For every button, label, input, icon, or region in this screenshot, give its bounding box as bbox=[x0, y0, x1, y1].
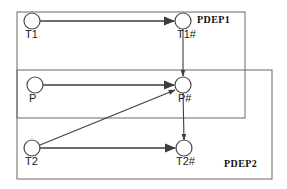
node-label-t1: T1 bbox=[25, 28, 38, 40]
node-label-ph: P# bbox=[178, 92, 192, 104]
node-t2[interactable] bbox=[24, 140, 40, 156]
node-label-t2: T2 bbox=[25, 155, 38, 167]
node-label-p: P bbox=[29, 92, 36, 104]
region-label-pdep2: PDEP2 bbox=[224, 158, 257, 169]
node-ph[interactable] bbox=[175, 77, 191, 93]
node-label-t1h: T1# bbox=[177, 28, 197, 40]
node-t1h[interactable] bbox=[175, 13, 191, 29]
node-p[interactable] bbox=[27, 77, 43, 93]
region-boxes bbox=[17, 12, 272, 179]
region-labels: PDEP1 PDEP2 bbox=[197, 14, 257, 169]
pdep-diagram: T1 T1# P P# T2 T2# PDEP1 PDEP2 bbox=[0, 0, 287, 189]
diagram-canvas: T1 T1# P P# T2 T2# PDEP1 PDEP2 bbox=[0, 0, 287, 189]
region-box-pdep1 bbox=[17, 12, 245, 118]
node-label-t2h: T2# bbox=[176, 155, 196, 167]
region-label-pdep1: PDEP1 bbox=[197, 14, 230, 25]
edges bbox=[40, 21, 184, 148]
node-labels: T1 T1# P P# T2 T2# bbox=[25, 28, 197, 167]
node-t2h[interactable] bbox=[176, 140, 192, 156]
node-t1[interactable] bbox=[24, 13, 40, 29]
